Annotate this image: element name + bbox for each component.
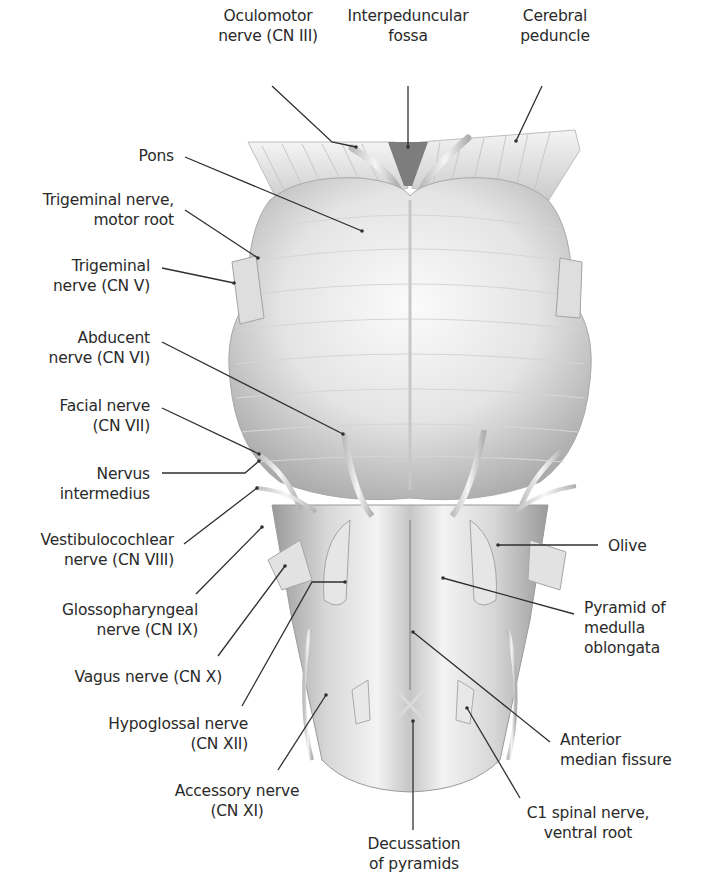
label-line: Nervus xyxy=(30,464,150,484)
label-line: Glossopharyngeal xyxy=(30,600,198,620)
brainstem-figure: Oculomotor nerve (CN III) Interpeduncula… xyxy=(0,0,710,882)
label-line: Accessory nerve xyxy=(165,781,309,801)
medulla-oblongata xyxy=(268,505,566,792)
label-line: (CN VII) xyxy=(30,416,150,436)
label-interpeduncular-fossa: Interpeduncular fossa xyxy=(340,6,476,46)
label-nervus-intermedius: Nervus intermedius xyxy=(30,464,150,504)
label-line: Trigeminal xyxy=(30,256,150,276)
label-line: Hypoglossal nerve xyxy=(80,714,248,734)
label-line: medulla xyxy=(584,618,694,638)
label-line: nerve (CN VIII) xyxy=(10,550,174,570)
label-trigeminal-motor-root: Trigeminal nerve, motor root xyxy=(20,190,174,230)
label-line: Abducent xyxy=(30,328,150,348)
label-line: Vagus nerve (CN X) xyxy=(50,667,222,687)
label-trigeminal-nerve: Trigeminal nerve (CN V) xyxy=(30,256,150,296)
label-glossopharyngeal-nerve: Glossopharyngeal nerve (CN IX) xyxy=(30,600,198,640)
label-line: Trigeminal nerve, xyxy=(20,190,174,210)
label-cerebral-peduncle: Cerebral peduncle xyxy=(500,6,610,46)
label-line: ventral root xyxy=(508,823,668,843)
pons xyxy=(229,178,591,516)
label-line: Oculomotor xyxy=(208,6,328,26)
label-vestibulocochlear-nerve: Vestibulocochlear nerve (CN VIII) xyxy=(10,530,174,570)
label-line: nerve (CN IX) xyxy=(30,620,198,640)
label-hypoglossal-nerve: Hypoglossal nerve (CN XII) xyxy=(80,714,248,754)
label-anterior-median-fissure: Anterior median fissure xyxy=(560,730,700,770)
label-olive: Olive xyxy=(608,536,688,556)
label-line: C1 spinal nerve, xyxy=(508,803,668,823)
label-line: nerve (CN III) xyxy=(208,26,328,46)
label-pyramid-of-medulla: Pyramid of medulla oblongata xyxy=(584,598,694,658)
label-line: (CN XII) xyxy=(80,734,248,754)
label-abducent-nerve: Abducent nerve (CN VI) xyxy=(30,328,150,368)
label-line: Decussation xyxy=(352,834,476,854)
label-line: fossa xyxy=(340,26,476,46)
label-line: median fissure xyxy=(560,750,700,770)
label-line: Anterior xyxy=(560,730,700,750)
label-decussation-of-pyramids: Decussation of pyramids xyxy=(352,834,476,874)
label-line: intermedius xyxy=(30,484,150,504)
label-line: Facial nerve xyxy=(30,396,150,416)
label-oculomotor-nerve: Oculomotor nerve (CN III) xyxy=(208,6,328,46)
label-line: peduncle xyxy=(500,26,610,46)
label-line: of pyramids xyxy=(352,854,476,874)
label-line: Interpeduncular xyxy=(340,6,476,26)
label-line: Pyramid of xyxy=(584,598,694,618)
label-line: nerve (CN VI) xyxy=(30,348,150,368)
label-line: Pons xyxy=(60,146,174,166)
label-line: nerve (CN V) xyxy=(30,276,150,296)
label-accessory-nerve: Accessory nerve (CN XI) xyxy=(165,781,309,821)
label-line: Cerebral xyxy=(500,6,610,26)
label-line: Olive xyxy=(608,536,688,556)
label-line: motor root xyxy=(20,210,174,230)
label-vagus-nerve: Vagus nerve (CN X) xyxy=(50,667,222,687)
label-facial-nerve: Facial nerve (CN VII) xyxy=(30,396,150,436)
label-line: (CN XI) xyxy=(165,801,309,821)
label-c1-spinal-nerve: C1 spinal nerve, ventral root xyxy=(508,803,668,843)
label-pons: Pons xyxy=(60,146,174,166)
label-line: oblongata xyxy=(584,638,694,658)
label-line: Vestibulocochlear xyxy=(10,530,174,550)
